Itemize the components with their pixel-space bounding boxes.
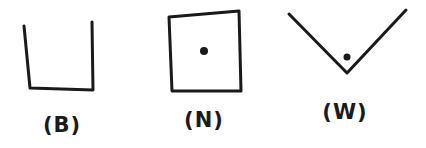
figure-b-label: (B): [43, 113, 81, 137]
vertex-dot: [344, 54, 351, 61]
figure-w-v-wedge: [289, 10, 406, 73]
figure-n-label: (N): [184, 108, 224, 132]
figure-b-open-box: [24, 22, 93, 90]
v-wedge-outline: [289, 10, 406, 73]
figure-w-label: (W): [322, 100, 367, 124]
center-dot: [200, 47, 208, 55]
figure-n-closed-square: [169, 11, 241, 91]
open-box-outline: [24, 22, 93, 90]
